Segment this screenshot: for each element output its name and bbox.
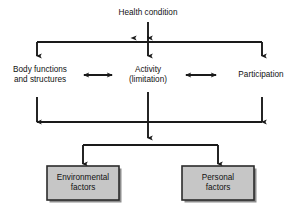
node-environmental-factors-label: Environmental factors	[47, 166, 119, 200]
icf-diagram-canvas: Health condition Body functions and stru…	[0, 0, 294, 216]
figure-caption	[0, 205, 294, 216]
connector-top-bracket	[37, 36, 262, 56]
connector-bottom-bracket	[37, 92, 262, 138]
connector-contextual-bracket	[83, 145, 218, 164]
node-personal-factors-label: Personal factors	[182, 166, 254, 200]
connector-activity-to-health	[132, 22, 149, 38]
